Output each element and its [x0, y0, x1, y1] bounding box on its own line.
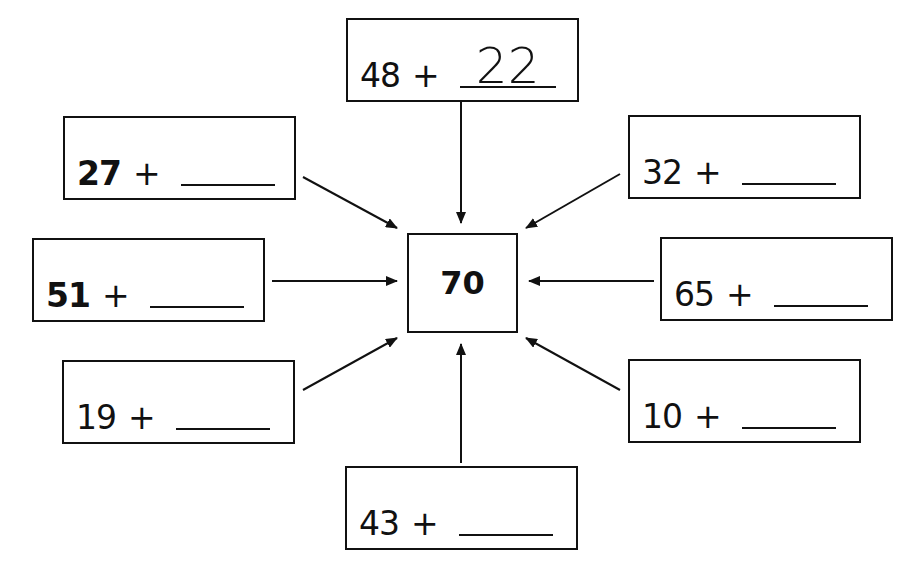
equation-box-top: 48 + 22 [346, 18, 579, 102]
equation-box-right: 65 + [660, 237, 893, 321]
answer-blank[interactable] [150, 266, 244, 308]
addend: 43 [359, 507, 399, 540]
answer-blank[interactable] [181, 144, 275, 186]
answer-blank[interactable] [459, 494, 553, 536]
equation-box-upper-left: 27 + [63, 116, 296, 200]
target-box: 70 [407, 233, 518, 333]
arrow-upper-right [526, 174, 620, 228]
equation-box-left: 51 + [32, 238, 265, 322]
equation-box-lower-left: 19 + [62, 360, 295, 444]
addend: 65 [674, 278, 714, 311]
addend: 51 [46, 279, 90, 312]
plus-sign: + [694, 156, 722, 189]
arrow-lower-left [303, 338, 397, 390]
equation-box-lower-right: 10 + [628, 359, 861, 443]
plus-sign: + [411, 507, 439, 540]
addend: 48 [360, 59, 400, 92]
arrow-upper-left [303, 177, 397, 228]
answer-blank[interactable] [742, 143, 836, 185]
equation-box-bottom: 43 + [345, 466, 578, 550]
addend: 10 [642, 400, 682, 433]
addend: 19 [76, 401, 116, 434]
target-value: 70 [440, 264, 485, 302]
addend: 32 [642, 156, 682, 189]
plus-sign: + [694, 400, 722, 433]
answer-blank[interactable]: 22 [460, 46, 556, 88]
answer-blank[interactable] [742, 387, 836, 429]
addend: 27 [77, 157, 121, 190]
plus-sign: + [133, 157, 161, 190]
arrow-lower-right [526, 338, 620, 390]
plus-sign: + [128, 401, 156, 434]
answer-blank[interactable] [176, 388, 270, 430]
plus-sign: + [726, 278, 754, 311]
answer-blank[interactable] [774, 265, 868, 307]
equation-box-upper-right: 32 + [628, 115, 861, 199]
plus-sign: + [412, 59, 440, 92]
plus-sign: + [102, 279, 130, 312]
